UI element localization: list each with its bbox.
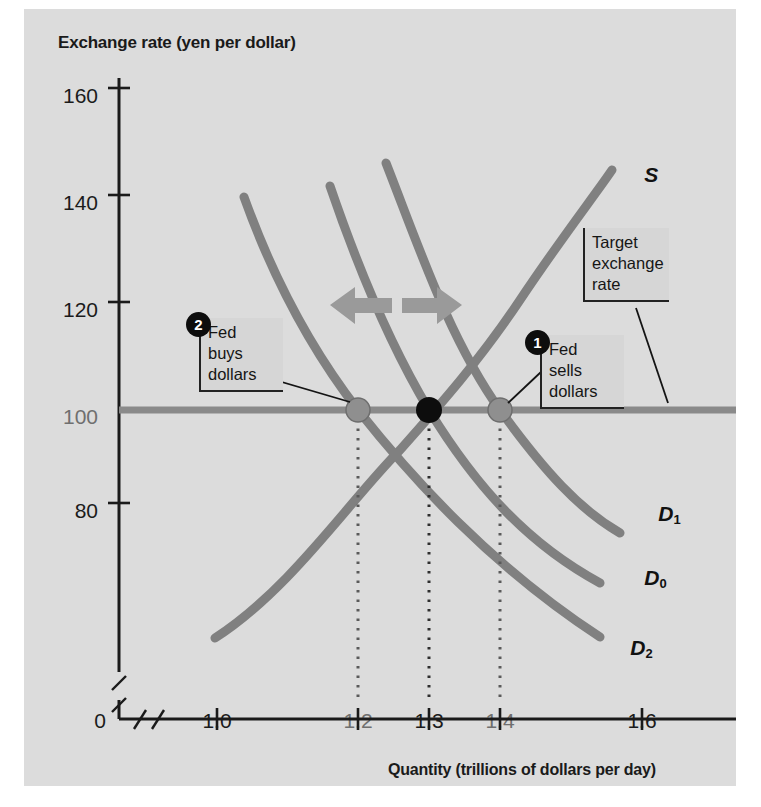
curve-label-d1-text: D: [658, 502, 673, 525]
y-axis: [108, 78, 130, 719]
callout-target-exchange-rate: Target exchange rate: [583, 228, 669, 302]
curve-label-d1-sub: 1: [674, 512, 681, 527]
callout-fed-sells-line-1: Fed sells: [549, 339, 615, 381]
figure-screenshot: Exchange rate (yen per dollar) Quantity …: [0, 0, 761, 807]
x-axis: [119, 708, 736, 730]
chart-canvas: [0, 0, 761, 807]
curve-label-d2-text: D: [630, 636, 645, 659]
equilibrium-marker-initial: [416, 397, 442, 423]
callout-target-line-1: Target: [592, 232, 660, 253]
curve-label-d0: D0: [621, 542, 667, 615]
curve-label-d0-text: D: [644, 566, 659, 589]
callout-fed-buys-line-1: Fed buys: [208, 322, 274, 364]
callout-fed-buys-dollars: Fed buys dollars: [199, 318, 283, 392]
curve-label-d2-sub: 2: [646, 646, 653, 661]
badge-1: 1: [525, 330, 550, 355]
callout-fed-sells-dollars: Fed sells dollars: [540, 335, 624, 409]
curve-label-d0-sub: 0: [660, 576, 667, 591]
leader-line-fed-sells: [508, 372, 541, 403]
callout-fed-buys-line-2: dollars: [208, 364, 274, 385]
curve-label-d2: D2: [607, 612, 653, 685]
curve-label-d1: D1: [635, 478, 681, 551]
curve-label-s: S: [621, 139, 658, 211]
callout-fed-sells-line-2: dollars: [549, 381, 615, 402]
badge-2: 2: [186, 312, 211, 337]
curve-label-s-text: S: [644, 163, 658, 186]
leader-line-target-rate: [636, 308, 668, 403]
callout-target-line-2: exchange: [592, 253, 660, 274]
callout-target-line-3: rate: [592, 274, 660, 295]
